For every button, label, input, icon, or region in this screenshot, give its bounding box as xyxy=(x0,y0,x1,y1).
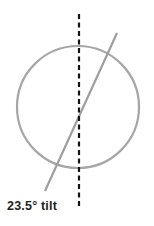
axial-tilt-figure: 23.5° tilt xyxy=(0,0,154,226)
tilt-label: 23.5° tilt xyxy=(7,199,57,213)
planet-circle xyxy=(17,46,139,168)
tilt-diagram-canvas xyxy=(0,0,154,226)
